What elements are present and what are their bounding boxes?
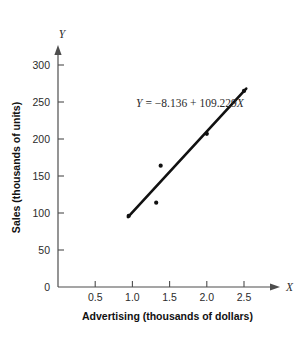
x-axis-arrow-icon <box>270 283 280 290</box>
data-point <box>205 132 209 136</box>
scatter-plot: 50100150200250300 0.51.01.52.02.5 Y X 0 … <box>0 0 307 338</box>
data-point <box>127 214 131 218</box>
y-axis-name-label: Y <box>59 28 67 40</box>
y-tick-label: 100 <box>32 207 50 219</box>
x-tick-label: 1.0 <box>125 291 140 303</box>
x-tick-label: 0.5 <box>88 291 103 303</box>
equation-slope: 109.229 <box>199 97 237 109</box>
y-axis-ticks: 50100150200250300 <box>32 59 64 256</box>
origin-tick-label: 0 <box>44 281 50 293</box>
regression-equation-annotation: Y = −8.136 + 109.229X <box>136 97 245 109</box>
equation-plus: + <box>187 97 199 109</box>
equation-rhs-variable: X <box>236 97 245 109</box>
x-axis-name-label: X <box>285 281 294 293</box>
x-tick-label: 1.5 <box>162 291 177 303</box>
data-point <box>154 201 158 205</box>
data-point <box>159 164 163 168</box>
y-tick-label: 200 <box>32 133 50 145</box>
chart-figure: 50100150200250300 0.51.01.52.02.5 Y X 0 … <box>0 0 307 338</box>
y-tick-label: 250 <box>32 96 50 108</box>
data-point <box>242 89 246 93</box>
equation-equals: = <box>143 97 155 109</box>
y-axis-title: Sales (thousands of units) <box>10 102 22 233</box>
equation-intercept: −8.136 <box>155 97 188 109</box>
y-axis-arrow-icon <box>54 45 61 55</box>
x-axis-ticks: 0.51.01.52.02.5 <box>88 281 252 303</box>
y-tick-label: 50 <box>38 244 50 256</box>
x-axis-title: Advertising (thousands of dollars) <box>82 310 253 322</box>
y-tick-label: 300 <box>32 59 50 71</box>
y-tick-label: 150 <box>32 170 50 182</box>
x-tick-label: 2.5 <box>237 291 252 303</box>
x-tick-label: 2.0 <box>199 291 214 303</box>
